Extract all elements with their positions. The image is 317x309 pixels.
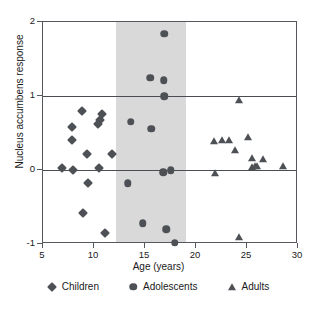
data-point-adolescents — [161, 92, 169, 100]
data-point-children — [94, 163, 104, 173]
x-tick-label-10: 10 — [80, 250, 106, 260]
data-point-adults — [225, 136, 233, 143]
data-point-adolescents — [139, 220, 147, 228]
data-point-adolescents — [163, 225, 171, 233]
data-point-adults — [253, 162, 261, 169]
data-point-adolescents — [124, 180, 132, 188]
data-point-adolescents — [160, 77, 168, 85]
x-axis-label: Age (years) — [0, 261, 317, 272]
legend-item-adults: Adults — [227, 281, 269, 292]
legend-item-label: Adolescents — [143, 281, 197, 292]
legend-item-label: Adults — [241, 281, 269, 292]
y-tick-label-1: 1 — [9, 90, 35, 100]
data-point-children — [57, 163, 67, 173]
scatter-plot-figure: Nucleus accumbens response -1012 5101520… — [0, 0, 317, 309]
y-tick-label--1: -1 — [9, 238, 35, 248]
data-point-adults — [279, 162, 287, 169]
x-tick-mark-25 — [246, 243, 247, 248]
data-point-adults — [248, 154, 256, 161]
data-point-adults — [211, 169, 219, 176]
data-point-children — [100, 228, 110, 238]
legend-item-label: Children — [62, 281, 99, 292]
data-point-children — [77, 106, 87, 116]
diamond-icon — [48, 282, 57, 291]
data-point-adults — [235, 233, 243, 240]
legend-item-children: Children — [48, 281, 99, 292]
triangle-icon — [227, 282, 236, 291]
data-point-adults — [244, 133, 252, 140]
data-point-adolescents — [167, 166, 175, 174]
circle-icon — [129, 282, 138, 291]
data-point-adolescents — [147, 125, 155, 133]
data-point-children — [82, 149, 92, 159]
x-tick-label-20: 20 — [182, 250, 208, 260]
y-tick-label-2: 2 — [9, 16, 35, 26]
x-tick-label-25: 25 — [233, 250, 259, 260]
plot-area — [42, 21, 297, 243]
data-point-adolescents — [146, 74, 154, 82]
x-tick-label-5: 5 — [29, 250, 55, 260]
x-tick-mark-5 — [42, 243, 43, 248]
data-point-children — [68, 165, 78, 175]
data-point-adults — [231, 146, 239, 153]
x-tick-label-15: 15 — [131, 250, 157, 260]
x-tick-mark-15 — [144, 243, 145, 248]
x-tick-mark-30 — [297, 243, 298, 248]
legend: ChildrenAdolescentsAdults — [0, 281, 317, 292]
data-point-children — [67, 122, 77, 132]
x-tick-mark-10 — [93, 243, 94, 248]
data-point-children — [78, 208, 88, 218]
data-point-adolescents — [127, 118, 135, 126]
reference-line-1 — [43, 96, 296, 97]
legend-item-adolescents: Adolescents — [129, 281, 197, 292]
data-point-children — [67, 135, 77, 145]
x-tick-label-30: 30 — [284, 250, 310, 260]
data-point-adolescents — [161, 30, 169, 38]
data-point-adults — [235, 96, 243, 103]
data-point-adolescents — [171, 239, 179, 247]
y-axis-label: Nucleus accumbens response — [14, 17, 25, 187]
data-point-adults — [259, 155, 267, 162]
y-tick-label-0: 0 — [9, 164, 35, 174]
data-point-children — [83, 178, 93, 188]
x-tick-mark-20 — [195, 243, 196, 248]
